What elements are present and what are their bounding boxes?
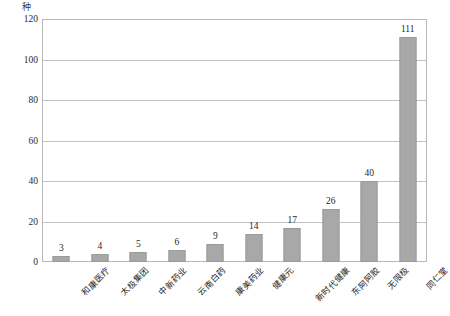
bar-slot: 6	[158, 19, 197, 262]
x-category-label: 太极集团	[118, 265, 151, 298]
x-category-label: 中新药业	[157, 265, 190, 298]
bar-value-label: 111	[401, 24, 415, 34]
bar-slot: 26	[312, 19, 351, 262]
bar-slot: 5	[119, 19, 158, 262]
bar-slot: 4	[81, 19, 120, 262]
bar-slot: 40	[350, 19, 389, 262]
y-tick-label: 60	[0, 136, 38, 146]
y-axis-tick-labels: 020406080100120	[0, 19, 38, 262]
x-axis-category-labels: 和康医疗太极集团中新药业云南白药康美药业健康元新时代健康东阿阿胶无限极同仁堂	[42, 263, 427, 316]
bar-slot: 111	[389, 19, 428, 262]
bar-value-label: 5	[136, 239, 141, 249]
x-category-label: 康美药业	[234, 265, 267, 298]
y-axis-unit-label: 种	[22, 2, 31, 13]
bar-value-label: 14	[249, 221, 259, 231]
bar-slot: 3	[42, 19, 81, 262]
y-tick-label: 20	[0, 217, 38, 227]
x-category-label: 东阿阿胶	[349, 265, 382, 298]
bar[interactable]	[168, 250, 185, 262]
x-category-label: 无限极	[385, 265, 411, 291]
bar-value-label: 3	[59, 243, 64, 253]
bar[interactable]	[130, 252, 147, 262]
x-category-label: 新时代健康	[313, 265, 352, 304]
y-tick-label: 0	[0, 257, 38, 267]
x-category-label: 健康元	[270, 265, 296, 291]
bar-value-label: 40	[365, 168, 375, 178]
bar[interactable]	[245, 234, 262, 262]
bar-slot: 9	[196, 19, 235, 262]
bar-slot: 17	[273, 19, 312, 262]
y-tick-label: 120	[0, 14, 38, 24]
bar-slot: 14	[235, 19, 274, 262]
bar[interactable]	[361, 181, 378, 262]
y-tick-label: 100	[0, 55, 38, 65]
x-category-label: 云南白药	[195, 265, 228, 298]
bars-layer: 3456914172640111	[42, 19, 427, 262]
bar[interactable]	[284, 228, 301, 262]
bar-value-label: 6	[174, 237, 179, 247]
bar[interactable]	[91, 254, 108, 262]
bar[interactable]	[207, 244, 224, 262]
x-category-label: 同仁堂	[424, 265, 450, 291]
y-tick-label: 80	[0, 95, 38, 105]
y-tick-label: 40	[0, 176, 38, 186]
bar-value-label: 4	[97, 241, 102, 251]
bar[interactable]	[53, 256, 70, 262]
x-category-label: 和康医疗	[80, 265, 113, 298]
bar-value-label: 26	[326, 196, 336, 206]
bar[interactable]	[322, 209, 339, 262]
bar-value-label: 17	[288, 215, 298, 225]
bar[interactable]	[399, 37, 416, 262]
bar-value-label: 9	[213, 231, 218, 241]
